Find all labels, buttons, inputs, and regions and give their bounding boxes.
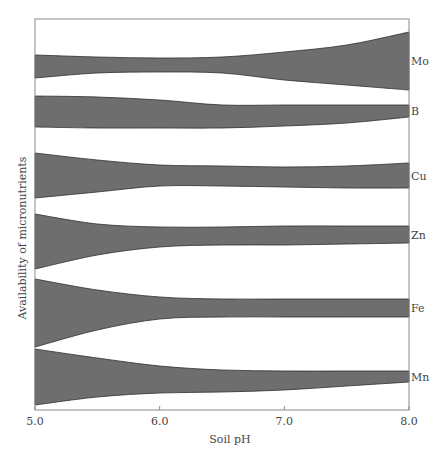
band-mo [35, 32, 409, 90]
band-mn [35, 349, 409, 405]
x-axis-ticks: 5.06.07.08.0 [26, 406, 418, 428]
band-label-mo: Mo [411, 55, 429, 68]
band-zn [35, 214, 409, 269]
band-fe [35, 279, 409, 347]
band-label-mn: Mn [411, 371, 429, 384]
band-label-fe: Fe [411, 302, 425, 315]
band-label-zn: Zn [411, 229, 426, 242]
band-label-b: B [411, 105, 419, 118]
x-tick-label: 8.0 [400, 415, 418, 428]
x-tick-label: 6.0 [151, 415, 169, 428]
band-b [35, 96, 409, 128]
x-tick-label: 5.0 [26, 415, 44, 428]
x-tick-label: 7.0 [276, 415, 294, 428]
band-cu [35, 153, 409, 198]
y-axis-title: Availability of micronutrients [16, 156, 29, 320]
band-labels-group: MoBCuZnFeMn [411, 55, 429, 384]
bands-group [35, 32, 409, 405]
micronutrient-availability-chart: MoBCuZnFeMn 5.06.07.08.0 Soil pH Availab… [0, 0, 444, 463]
x-axis-title: Soil pH [209, 433, 250, 446]
band-label-cu: Cu [411, 170, 427, 183]
